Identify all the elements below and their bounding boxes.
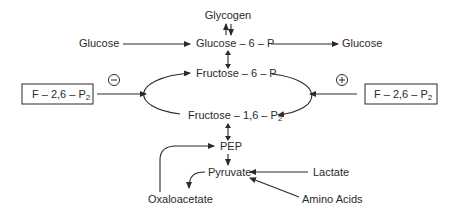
arrow-pyruvate-to-oxaloacetate [189, 172, 205, 188]
node-glucose-right: Glucose [342, 37, 382, 49]
node-glucose-6-p: Glucose – 6 – P [196, 37, 274, 49]
arrow-amino-acids-to-pyruvate [250, 178, 299, 197]
node-fructose-16-p2: Fructose – 1,6 – P2 [188, 109, 283, 123]
node-fructose-6-p: Fructose – 6 – P [196, 67, 277, 79]
node-glucose-left: Glucose [79, 37, 119, 49]
node-lactate: Lactate [313, 166, 349, 178]
regulator-left-label: F – 2,6 – P2 [32, 88, 91, 102]
node-oxaloacetate: Oxaloacetate [148, 193, 213, 205]
regulator-right-label: F – 2,6 – P2 [374, 88, 433, 102]
arrowhead-up [225, 50, 231, 55]
arrow-oxaloacetate-to-pep [160, 146, 214, 192]
node-glycogen: Glycogen [205, 9, 251, 21]
node-amino-acids: Amino Acids [302, 193, 363, 205]
node-pep: PEP [220, 140, 242, 152]
arrowhead-up [225, 123, 231, 128]
arc-left-cycle [144, 73, 190, 114]
node-pyruvate: Pyruvate [208, 166, 251, 178]
arc-right-cycle [272, 74, 312, 115]
glycolysis-regulation-diagram: Glycogen Glucose Glucose – 6 – P Glucose… [0, 0, 451, 215]
